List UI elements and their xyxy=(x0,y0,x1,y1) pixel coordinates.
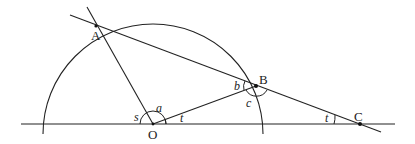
label-O: O xyxy=(148,127,157,142)
point-O xyxy=(152,123,155,126)
angle-label-a: a xyxy=(156,101,162,115)
angle-label-s: s xyxy=(134,110,139,124)
line-OB xyxy=(153,86,256,124)
angle-label-b: b xyxy=(234,79,240,93)
angle-arc-b xyxy=(244,81,245,90)
label-A: A xyxy=(91,28,101,43)
circle-arc xyxy=(43,24,263,134)
line-ABC xyxy=(70,15,381,132)
angle-arc-s-a xyxy=(140,111,166,124)
angle-arc-t-C xyxy=(334,115,335,124)
angle-label-c: c xyxy=(246,96,252,110)
geometry-diagram: A B C O s a t b c t xyxy=(0,0,415,144)
label-C: C xyxy=(354,109,363,124)
point-B xyxy=(254,84,258,88)
label-B: B xyxy=(259,72,268,87)
angle-label-t-C: t xyxy=(325,111,329,125)
